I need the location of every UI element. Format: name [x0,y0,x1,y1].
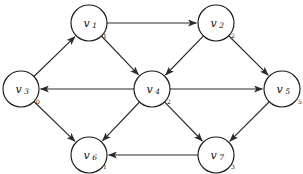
node-v4[interactable]: v42 [134,71,171,107]
node-label-v1: v [83,17,90,30]
edge-v1-to-v4 [101,36,138,75]
node-label-v2: v [210,17,217,30]
node-label-v4: v [146,83,153,96]
node-label-v6: v [83,149,90,162]
node-label-v3: v [15,83,22,96]
directed-graph: v11v22v30v42v55v61v73 [0,0,303,174]
node-subscript-v5: 5 [285,87,290,96]
node-subscript-v1: 1 [92,21,97,30]
node-v5[interactable]: v55 [264,71,302,107]
node-v6[interactable]: v61 [71,137,107,173]
node-weight-v6: 1 [103,163,107,170]
edge-v4-to-v6 [102,102,139,141]
node-v7[interactable]: v73 [198,137,235,173]
node-weight-v3: 0 [36,98,40,105]
node-weight-v4: 2 [167,98,171,105]
node-weight-v2: 2 [231,32,235,39]
edge-v3-to-v1 [34,37,75,77]
node-v3[interactable]: v30 [3,71,40,107]
node-label-v5: v [276,83,283,96]
node-subscript-v4: 4 [154,87,160,96]
edge-v2-to-v5 [229,36,268,75]
edge-v2-to-v4 [166,36,204,75]
node-subscript-v6: 6 [92,153,97,162]
node-subscript-v3: 3 [24,87,29,96]
node-weight-v5: 5 [298,98,302,105]
graph-diagram-canvas: v11v22v30v42v55v61v73 [0,0,303,174]
node-weight-v1: 1 [103,32,107,39]
node-weight-v7: 3 [231,163,235,170]
node-v1[interactable]: v11 [71,5,107,41]
node-subscript-v7: 7 [219,153,224,162]
node-label-v7: v [210,149,217,162]
node-subscript-v2: 2 [218,21,224,30]
edge-v4-to-v7 [165,102,203,141]
edge-v3-to-v6 [34,102,75,142]
edge-v5-to-v7 [230,102,269,141]
node-v2[interactable]: v22 [198,5,235,41]
